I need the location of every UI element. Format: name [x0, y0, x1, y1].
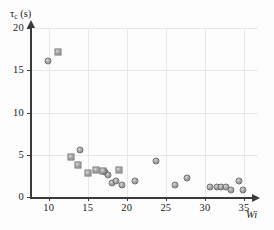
y-axis-tick — [27, 28, 31, 29]
y-gridline — [30, 113, 258, 114]
x-axis-tick-label: 20 — [114, 202, 140, 213]
x-axis-arrow-icon — [252, 194, 260, 202]
x-axis-line — [30, 197, 253, 199]
y-axis-tick — [27, 197, 31, 198]
y-axis-tick-label: 10 — [3, 107, 24, 118]
x-axis-tick — [244, 197, 245, 201]
x-axis-tick-label: 35 — [231, 202, 257, 213]
y-gridline — [30, 155, 258, 156]
x-axis-tick — [205, 197, 206, 201]
x-axis-tick-label: 30 — [192, 202, 218, 213]
x-axis-tick — [49, 197, 50, 201]
data-point-circle — [45, 57, 52, 64]
y-gridline — [30, 70, 258, 71]
scatter-plot-figure: τc (s) Wi 10152025303505101520 — [0, 0, 274, 230]
x-axis-tick — [127, 197, 128, 201]
x-axis-tick — [88, 197, 89, 201]
y-axis-tick — [27, 155, 31, 156]
y-axis-tick — [27, 113, 31, 114]
x-axis-tick-label: 15 — [75, 202, 101, 213]
y-gridline — [30, 28, 258, 29]
y-axis-tick-label: 15 — [3, 64, 24, 75]
data-point-circle — [132, 177, 139, 184]
y-axis-tick — [27, 70, 31, 71]
y-axis-label-unit: (s) — [20, 8, 31, 19]
data-point-square — [92, 166, 99, 173]
data-point-square — [84, 170, 91, 177]
y-axis-label-subscript: c — [14, 12, 17, 21]
plot-area — [30, 28, 258, 197]
x-axis-tick-label: 10 — [36, 202, 62, 213]
y-axis-tick-label: 20 — [3, 22, 24, 33]
data-point-circle — [240, 187, 247, 194]
data-point-circle — [172, 182, 179, 189]
data-point-circle — [76, 147, 83, 154]
x-axis-tick-label: 25 — [153, 202, 179, 213]
data-point-square — [100, 168, 107, 175]
data-point-square — [55, 49, 62, 56]
data-point-square — [67, 154, 74, 161]
data-point-square — [74, 162, 81, 169]
data-point-square — [116, 167, 123, 174]
data-point-circle — [119, 181, 126, 188]
y-axis-tick-label: 5 — [3, 149, 24, 160]
y-axis-tick-label: 0 — [3, 191, 24, 202]
data-point-circle — [152, 158, 159, 165]
data-point-circle — [227, 186, 234, 193]
data-point-circle — [236, 177, 243, 184]
x-axis-tick — [166, 197, 167, 201]
data-point-circle — [183, 174, 190, 181]
y-axis-arrow-icon — [27, 20, 35, 28]
